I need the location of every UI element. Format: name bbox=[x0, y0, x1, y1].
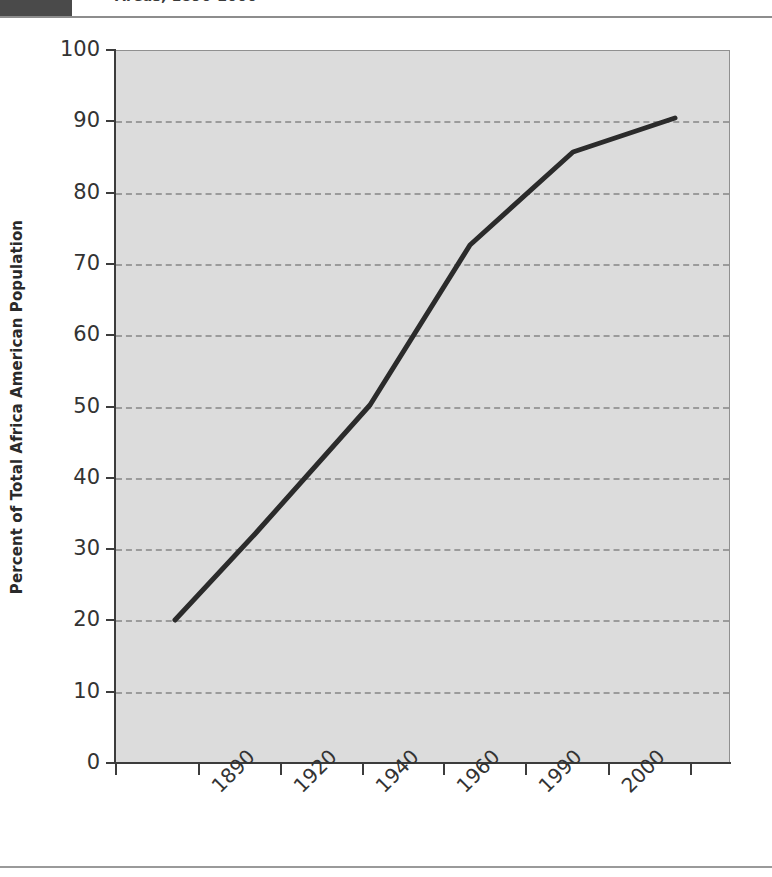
x-tick-mark bbox=[443, 763, 445, 775]
gridline bbox=[116, 121, 729, 123]
gridline bbox=[116, 407, 729, 409]
y-tick-label: 60 bbox=[14, 324, 100, 345]
y-tick-mark bbox=[106, 548, 116, 550]
y-tick-mark bbox=[106, 334, 116, 336]
y-tick-label: 10 bbox=[14, 681, 100, 702]
gridline bbox=[116, 620, 729, 622]
y-tick-mark bbox=[106, 263, 116, 265]
header-divider bbox=[0, 16, 772, 18]
x-tick-mark bbox=[608, 763, 610, 775]
y-tick-label: 100 bbox=[14, 39, 100, 60]
gridline bbox=[116, 478, 729, 480]
y-tick-mark bbox=[106, 619, 116, 621]
x-tick-mark bbox=[690, 763, 692, 775]
y-tick-label: 80 bbox=[14, 182, 100, 203]
y-tick-mark bbox=[106, 406, 116, 408]
y-tick-mark bbox=[106, 691, 116, 693]
gridlines bbox=[116, 50, 729, 763]
x-tick-mark bbox=[115, 763, 117, 775]
y-tick-mark bbox=[106, 192, 116, 194]
x-tick-mark bbox=[280, 763, 282, 775]
x-tick-mark bbox=[525, 763, 527, 775]
y-tick-label: 40 bbox=[14, 467, 100, 488]
y-tick-label: 0 bbox=[14, 752, 100, 773]
x-tick-mark bbox=[362, 763, 364, 775]
y-tick-mark bbox=[106, 120, 116, 122]
y-tick-label: 30 bbox=[14, 538, 100, 559]
header-accent-block bbox=[0, 0, 72, 16]
gridline bbox=[116, 549, 729, 551]
y-tick-mark bbox=[106, 477, 116, 479]
y-tick-label: 20 bbox=[14, 609, 100, 630]
x-tick-mark bbox=[198, 763, 200, 775]
y-tick-label: 50 bbox=[14, 396, 100, 417]
line-chart: 0102030405060708090100 18901920194019601… bbox=[0, 22, 772, 862]
y-axis-title: Percent of Total Africa American Populat… bbox=[8, 220, 26, 594]
gridline bbox=[116, 193, 729, 195]
footer-divider bbox=[0, 866, 772, 868]
y-tick-label: 90 bbox=[14, 110, 100, 131]
header-strip: Areas, 1890-2000 bbox=[0, 0, 772, 22]
gridline bbox=[116, 264, 729, 266]
page-title: Areas, 1890-2000 bbox=[115, 0, 257, 4]
gridline bbox=[116, 335, 729, 337]
y-tick-label: 70 bbox=[14, 253, 100, 274]
gridline bbox=[116, 692, 729, 694]
y-tick-mark bbox=[106, 49, 116, 51]
